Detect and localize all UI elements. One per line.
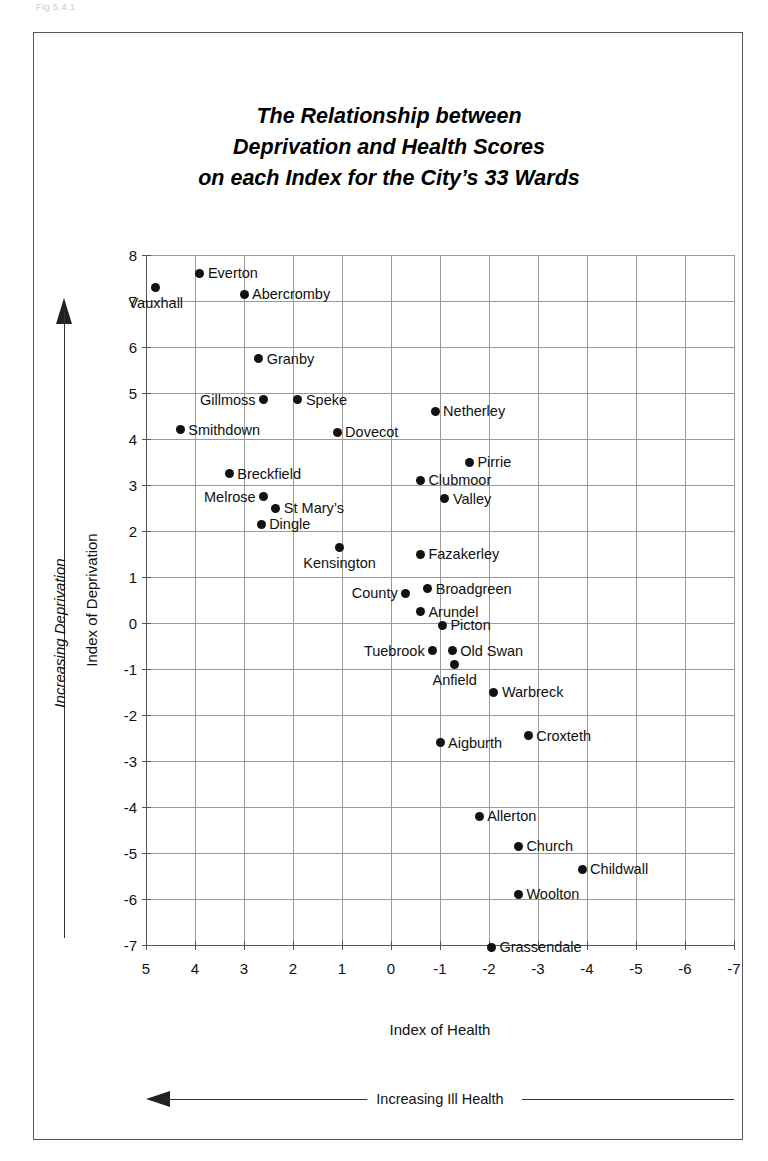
figure-caption-artifact: Fig 5.4.1	[36, 2, 76, 12]
x-gridline	[489, 255, 490, 945]
x-tick-label: 2	[289, 961, 297, 976]
y-tick-label: 5	[129, 386, 137, 401]
data-point[interactable]	[257, 520, 266, 529]
y-gridline	[146, 853, 734, 854]
data-point-label: St Mary’s	[284, 501, 344, 516]
data-point[interactable]	[254, 354, 263, 363]
data-point-label: Netherley	[443, 404, 505, 419]
arrow-shaft-left	[168, 1099, 380, 1100]
data-point-label: Grassendale	[499, 940, 581, 955]
x-axis-line	[146, 945, 734, 946]
chart-title: The Relationship between Deprivation and…	[34, 101, 744, 194]
data-point[interactable]	[450, 660, 459, 669]
x-gridline	[244, 255, 245, 945]
data-point[interactable]	[465, 458, 474, 467]
y-axis-title: Index of Deprivation	[83, 533, 100, 666]
y-tick-label: 2	[129, 524, 137, 539]
data-point[interactable]	[333, 428, 342, 437]
data-point-label: Dovecot	[345, 425, 398, 440]
arrow-head-left-icon	[146, 1091, 170, 1107]
data-point[interactable]	[514, 842, 523, 851]
data-point[interactable]	[489, 688, 498, 697]
data-point[interactable]	[240, 290, 249, 299]
x-tick-label: -6	[678, 961, 691, 976]
x-tick-label: -1	[433, 961, 446, 976]
data-point-label: Picton	[450, 618, 490, 633]
data-point[interactable]	[416, 607, 425, 616]
data-point[interactable]	[259, 395, 268, 404]
data-point[interactable]	[436, 738, 445, 747]
data-point[interactable]	[259, 492, 268, 501]
data-point[interactable]	[431, 407, 440, 416]
data-point-label: Valley	[453, 492, 491, 507]
increasing-ill-health-arrow-icon: Increasing Ill Health	[146, 1089, 734, 1111]
data-point[interactable]	[475, 812, 484, 821]
y-gridline	[146, 347, 734, 348]
data-point-label: Old Swan	[460, 643, 523, 658]
data-point[interactable]	[440, 494, 449, 503]
x-tick-label: 3	[240, 961, 248, 976]
data-point-label: Melrose	[204, 489, 256, 504]
y-gridline	[146, 669, 734, 670]
data-point-label: Broadgreen	[436, 581, 512, 596]
data-point[interactable]	[438, 621, 447, 630]
data-point-label: Dingle	[269, 517, 310, 532]
y-tick-label: 3	[129, 478, 137, 493]
data-point-label: Allerton	[487, 809, 536, 824]
data-point[interactable]	[225, 469, 234, 478]
y-gridline	[146, 439, 734, 440]
data-point[interactable]	[195, 269, 204, 278]
y-tick-label: -5	[124, 846, 137, 861]
x-tick-mark	[734, 941, 735, 950]
y-gridline	[146, 807, 734, 808]
data-point[interactable]	[151, 283, 160, 292]
data-point-label: Aigburth	[448, 735, 502, 750]
chart-title-line-2: Deprivation and Health Scores	[34, 132, 744, 163]
chart-title-line-3: on each Index for the City’s 33 Wards	[34, 163, 744, 194]
y-gridline	[146, 899, 734, 900]
data-point-label: Childwall	[590, 862, 648, 877]
data-point[interactable]	[416, 476, 425, 485]
data-point[interactable]	[176, 425, 185, 434]
data-point[interactable]	[416, 550, 425, 559]
data-point[interactable]	[335, 543, 344, 552]
data-point-label: Croxteth	[536, 728, 591, 743]
data-point[interactable]	[514, 890, 523, 899]
x-gridline	[734, 255, 735, 945]
increasing-ill-health-label: Increasing Ill Health	[367, 1091, 512, 1107]
x-gridline	[685, 255, 686, 945]
y-gridline	[146, 531, 734, 532]
data-point[interactable]	[578, 865, 587, 874]
x-tick-label: 5	[142, 961, 150, 976]
data-point-label: Breckfield	[237, 466, 301, 481]
data-point-label: Vauxhall	[129, 296, 184, 311]
data-point-label: Anfield	[433, 673, 477, 688]
data-point-label: Tuebrook	[364, 643, 425, 658]
data-point[interactable]	[401, 589, 410, 598]
y-tick-label: -6	[124, 892, 137, 907]
data-point[interactable]	[448, 646, 457, 655]
y-tick-label: 1	[129, 570, 137, 585]
data-point-label: Gillmoss	[200, 393, 256, 408]
data-point-label: Church	[526, 839, 573, 854]
x-gridline	[636, 255, 637, 945]
y-tick-label: -3	[124, 754, 137, 769]
arrow-shaft-right	[522, 1099, 734, 1100]
data-point[interactable]	[428, 646, 437, 655]
x-tick-label: -5	[629, 961, 642, 976]
data-point-label: Pirrie	[477, 455, 511, 470]
data-point-label: Abercromby	[252, 287, 330, 302]
data-point[interactable]	[524, 731, 533, 740]
data-point-label: Fazakerley	[428, 547, 499, 562]
data-point[interactable]	[271, 504, 280, 513]
data-point-label: Speke	[306, 393, 347, 408]
x-gridline	[195, 255, 196, 945]
data-point-label: Warbreck	[502, 685, 564, 700]
data-point[interactable]	[293, 395, 302, 404]
y-tick-label: 4	[129, 432, 137, 447]
x-axis-title: Index of Health	[146, 1021, 734, 1038]
data-point-label: Kensington	[303, 556, 376, 571]
data-point[interactable]	[423, 584, 432, 593]
y-gridline	[146, 301, 734, 302]
data-point[interactable]	[487, 943, 496, 952]
